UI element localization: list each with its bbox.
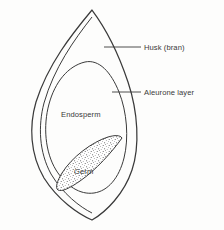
label-endosperm: Endosperm <box>61 110 101 119</box>
label-aleurone-layer: Aleurone layer <box>144 88 194 97</box>
diagram-page: Husk (bran) Aleurone layer Endosperm Ger… <box>0 0 224 230</box>
label-germ: Germ <box>74 167 93 176</box>
grain-cross-section-diagram <box>0 0 224 230</box>
label-husk: Husk (bran) <box>144 43 185 52</box>
